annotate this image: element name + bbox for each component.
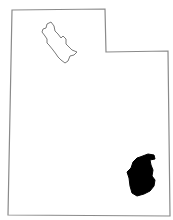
- utah-map: [0, 0, 173, 220]
